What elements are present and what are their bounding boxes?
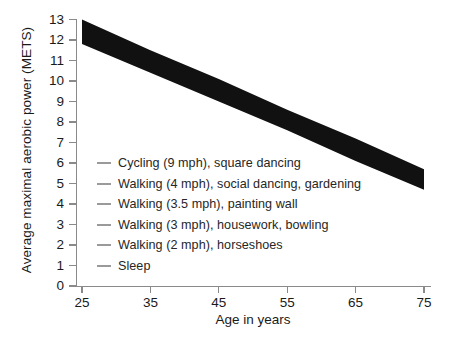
legend-item: Walking (2 mph), horseshoes — [97, 235, 361, 256]
legend-item-label: Walking (4 mph), social dancing, gardeni… — [118, 177, 361, 191]
y-tick-label: 6 — [18, 156, 64, 170]
y-tick-label: 12 — [18, 33, 64, 47]
x-axis-line — [76, 286, 431, 287]
x-tick-label: 25 — [62, 295, 102, 310]
x-tick-label: 75 — [404, 295, 444, 310]
x-tick-mark — [423, 286, 424, 293]
y-tick-mark — [69, 162, 76, 163]
legend-item-label: Cycling (9 mph), square dancing — [118, 156, 301, 170]
y-tick-mark — [69, 80, 76, 81]
legend-item-label: Walking (3.5 mph), painting wall — [118, 197, 298, 211]
y-tick-mark — [69, 183, 76, 184]
y-tick-label: 3 — [18, 218, 64, 232]
y-tick-mark — [69, 39, 76, 40]
legend-item: Cycling (9 mph), square dancing — [97, 153, 361, 174]
x-axis-label: Age in years — [82, 312, 424, 327]
x-tick-label: 55 — [267, 295, 307, 310]
legend-dash-icon — [97, 224, 111, 226]
y-tick-mark — [69, 285, 76, 286]
x-tick-label: 45 — [199, 295, 239, 310]
y-tick-mark — [69, 19, 76, 20]
y-tick-mark — [69, 203, 76, 204]
y-tick-mark — [69, 60, 76, 61]
legend-item-label: Walking (2 mph), horseshoes — [118, 238, 283, 252]
legend-dash-icon — [97, 265, 111, 267]
legend-dash-icon — [97, 162, 111, 164]
y-tick-mark — [69, 121, 76, 122]
x-tick-mark — [150, 286, 151, 293]
x-tick-mark — [287, 286, 288, 293]
y-tick-mark — [69, 224, 76, 225]
x-tick-label: 35 — [130, 295, 170, 310]
y-tick-label: 8 — [18, 115, 64, 129]
y-tick-mark — [69, 101, 76, 102]
legend-item: Sleep — [97, 256, 361, 277]
y-tick-label: 4 — [18, 197, 64, 211]
x-tick-mark — [218, 286, 219, 293]
y-axis-line — [76, 19, 77, 287]
legend-item: Walking (4 mph), social dancing, gardeni… — [97, 174, 361, 195]
y-tick-label: 13 — [18, 13, 64, 27]
x-tick-mark — [355, 286, 356, 293]
y-tick-mark — [69, 265, 76, 266]
y-tick-label: 11 — [18, 54, 64, 68]
y-tick-mark — [69, 142, 76, 143]
y-tick-label: 9 — [18, 95, 64, 109]
chart-figure: Average maximal aerobic power (METS) 012… — [0, 0, 464, 344]
x-tick-label: 65 — [336, 295, 376, 310]
activity-legend: Cycling (9 mph), square dancingWalking (… — [97, 153, 361, 276]
y-tick-label: 0 — [18, 279, 64, 293]
x-tick-mark — [81, 286, 82, 293]
y-tick-mark — [69, 244, 76, 245]
y-tick-label: 10 — [18, 74, 64, 88]
y-tick-label: 5 — [18, 177, 64, 191]
y-tick-label: 7 — [18, 136, 64, 150]
legend-item: Walking (3.5 mph), painting wall — [97, 194, 361, 215]
y-tick-label: 1 — [18, 259, 64, 273]
y-tick-label: 2 — [18, 238, 64, 252]
legend-dash-icon — [97, 244, 111, 246]
legend-dash-icon — [97, 183, 111, 185]
legend-item: Walking (3 mph), housework, bowling — [97, 215, 361, 236]
legend-item-label: Walking (3 mph), housework, bowling — [118, 218, 329, 232]
legend-item-label: Sleep — [118, 259, 150, 273]
legend-dash-icon — [97, 203, 111, 205]
